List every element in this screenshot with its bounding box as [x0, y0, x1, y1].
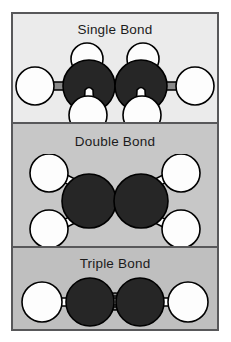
panel-title-triple-bond: Triple Bond	[13, 256, 217, 271]
carbon-atom	[66, 278, 114, 326]
hydrogen-atom	[162, 210, 200, 248]
carbon-atom	[62, 174, 116, 228]
hydrogen-atom	[176, 67, 214, 105]
hydrogen-atom	[162, 154, 200, 192]
panel-title-double-bond: Double Bond	[13, 134, 217, 149]
bond-types-figure: Single Bond	[0, 0, 231, 342]
molecule-ethane	[13, 40, 217, 124]
panel-title-single-bond: Single Bond	[13, 22, 217, 37]
hydrogen-atom	[168, 282, 208, 322]
panel-single-bond: Single Bond	[13, 14, 217, 124]
hydrogen-atom	[16, 67, 54, 105]
panel-double-bond: Double Bond	[13, 124, 217, 248]
hydrogen-atom	[22, 282, 62, 322]
carbon-atom	[116, 278, 164, 326]
panel-triple-bond: Triple Bond	[13, 248, 217, 329]
hydrogen-atom	[30, 154, 68, 192]
molecule-ethyne	[13, 274, 217, 329]
molecule-ethene	[13, 154, 217, 248]
carbon-atom	[114, 174, 168, 228]
hydrogen-atom	[30, 210, 68, 248]
diagram-frame: Single Bond	[11, 12, 219, 331]
